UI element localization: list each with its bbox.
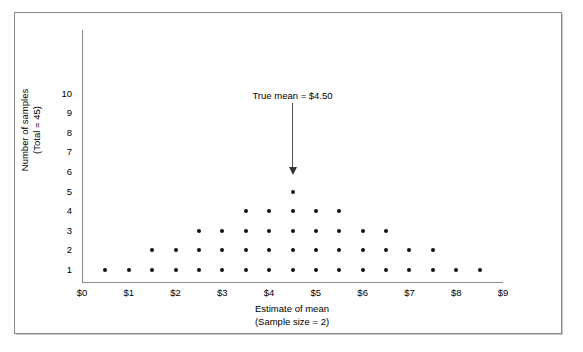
data-dot <box>220 268 224 272</box>
true-mean-annotation-label: True mean = $4.50 <box>178 90 408 101</box>
data-dot <box>431 268 435 272</box>
dot-plot-chart: Number of samples (Total = 45) Estimate … <box>0 0 583 352</box>
data-dot <box>407 268 411 272</box>
x-tick-label-3: $3 <box>207 287 237 298</box>
data-dot <box>314 248 318 252</box>
x-tick-label-1: $1 <box>114 287 144 298</box>
data-dot <box>314 229 318 233</box>
x-axis-title-main: Estimate of mean <box>255 303 329 314</box>
data-dot <box>454 268 458 272</box>
x-tick-label-2: $2 <box>161 287 191 298</box>
data-dot <box>267 248 271 252</box>
data-dot <box>384 229 388 233</box>
data-dot <box>174 248 178 252</box>
y-tick-label-4: 4 <box>46 206 72 216</box>
data-dot <box>337 229 341 233</box>
data-dot <box>150 268 154 272</box>
data-dot <box>127 268 131 272</box>
y-tick-label-1: 1 <box>46 265 72 275</box>
y-tick-label-10: 10 <box>46 89 72 99</box>
y-axis-title-main: Number of samples <box>19 89 30 171</box>
x-tick-label-6: $6 <box>348 287 378 298</box>
data-dot <box>431 248 435 252</box>
data-dot <box>244 209 248 213</box>
y-tick-label-6: 6 <box>46 167 72 177</box>
x-tick-label-5: $5 <box>301 287 331 298</box>
x-axis-line <box>82 282 503 283</box>
y-axis-line <box>82 30 83 282</box>
y-tick-label-9: 9 <box>46 108 72 118</box>
y-tick-label-3: 3 <box>46 226 72 236</box>
x-tick-label-0: $0 <box>67 287 97 298</box>
data-dot <box>337 268 341 272</box>
data-dot <box>174 268 178 272</box>
data-dot <box>361 229 365 233</box>
true-mean-arrow-shaft <box>292 103 293 169</box>
y-tick-label-8: 8 <box>46 128 72 138</box>
data-dot <box>220 248 224 252</box>
data-dot <box>267 229 271 233</box>
data-dot <box>267 209 271 213</box>
data-dot <box>291 268 295 272</box>
data-dot <box>337 209 341 213</box>
data-dot <box>291 229 295 233</box>
data-dot <box>291 190 295 194</box>
true-mean-arrow-head <box>289 167 297 175</box>
data-dot <box>291 209 295 213</box>
x-tick-label-4: $4 <box>254 287 284 298</box>
data-dot <box>244 229 248 233</box>
data-dot <box>361 248 365 252</box>
x-axis-title: Estimate of mean (Sample size = 2) <box>202 303 382 328</box>
data-dot <box>244 248 248 252</box>
data-dot <box>291 248 295 252</box>
x-axis-title-sub: (Sample size = 2) <box>255 316 329 327</box>
y-tick-label-2: 2 <box>46 245 72 255</box>
y-axis-title-sub: (Total = 45) <box>31 106 42 154</box>
data-dot <box>197 229 201 233</box>
data-dot <box>220 229 224 233</box>
y-axis-title: Number of samples (Total = 45) <box>19 75 43 185</box>
data-dot <box>478 268 482 272</box>
x-tick-label-9: $9 <box>488 287 518 298</box>
x-tick-label-7: $7 <box>394 287 424 298</box>
data-dot <box>384 268 388 272</box>
data-dot <box>244 268 248 272</box>
data-dot <box>337 248 341 252</box>
data-dot <box>314 268 318 272</box>
data-dot <box>150 248 154 252</box>
data-dot <box>103 268 107 272</box>
data-dot <box>361 268 365 272</box>
data-dot <box>197 268 201 272</box>
data-dot <box>384 248 388 252</box>
y-tick-label-5: 5 <box>46 187 72 197</box>
data-dot <box>314 209 318 213</box>
x-tick-label-8: $8 <box>441 287 471 298</box>
data-dot <box>267 268 271 272</box>
y-tick-label-7: 7 <box>46 147 72 157</box>
data-dot <box>407 248 411 252</box>
data-dot <box>197 248 201 252</box>
